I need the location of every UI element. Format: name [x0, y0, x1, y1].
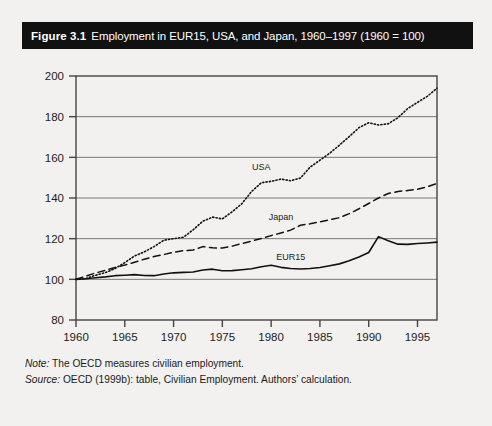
- figure-caption: Employment in EUR15, USA, and Japan, 196…: [91, 30, 424, 42]
- figure-title-bar: Figure 3.1 Employment in EUR15, USA, and…: [22, 22, 473, 49]
- x-tick-label: 1970: [161, 331, 187, 343]
- note-line: Note: The OECD measures civilian employm…: [25, 356, 465, 372]
- source-line: Source: OECD (1999b): table, Civilian Em…: [25, 372, 465, 388]
- figure-footnotes: Note: The OECD measures civilian employm…: [25, 356, 465, 388]
- x-tick-label: 1980: [258, 331, 284, 343]
- gridlines: [76, 117, 437, 280]
- x-tick-label: 1965: [112, 331, 138, 343]
- x-tick-label: 1990: [356, 331, 382, 343]
- x-tick-label: 1975: [210, 331, 236, 343]
- y-tick-label: 200: [45, 70, 64, 82]
- line-chart: 80100120140160180200 1960196519701975198…: [0, 49, 492, 349]
- figure-card: Figure 3.1 Employment in EUR15, USA, and…: [0, 0, 492, 426]
- note-text: The OECD measures civilian employment.: [49, 358, 244, 369]
- note-kicker: Note:: [25, 358, 49, 369]
- x-tick-label: 1985: [307, 331, 333, 343]
- series-inline-labels: EUR15JapanUSA: [252, 162, 305, 262]
- x-tick-label: 1960: [63, 331, 89, 343]
- y-tick-label: 140: [45, 192, 64, 204]
- y-axis-tick-labels: 80100120140160180200: [45, 70, 64, 326]
- series-line-eur15: [76, 237, 437, 280]
- y-tick-label: 80: [51, 314, 64, 326]
- y-tick-label: 120: [45, 233, 64, 245]
- source-kicker: Source:: [25, 374, 60, 385]
- series-label-usa: USA: [252, 162, 271, 172]
- y-tick-label: 180: [45, 111, 64, 123]
- x-tick-label: 1995: [405, 331, 431, 343]
- series-label-japan: Japan: [269, 212, 294, 222]
- figure-number: Figure 3.1: [31, 30, 86, 42]
- chart-plot-area: 80100120140160180200 1960196519701975198…: [0, 49, 492, 349]
- source-text: OECD (1999b): table, Civilian Employment…: [60, 374, 352, 385]
- series-label-eur15: EUR15: [276, 252, 305, 262]
- y-tick-label: 100: [45, 274, 64, 286]
- x-axis-tick-labels: 19601965197019751980198519901995: [63, 331, 430, 343]
- y-tick-label: 160: [45, 152, 64, 164]
